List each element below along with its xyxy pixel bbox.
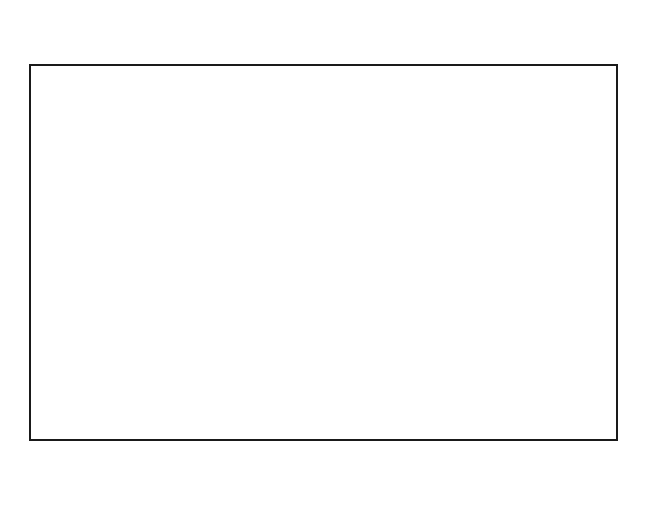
column-grid <box>29 64 618 441</box>
computing-node-labels <box>0 449 651 471</box>
column-number-labels <box>0 42 651 64</box>
